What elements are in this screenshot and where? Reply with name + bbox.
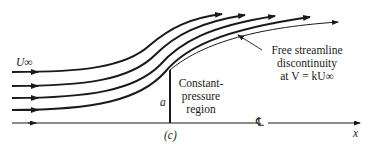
streamline-1 [12, 14, 222, 72]
centerline-symbol: ℄ [256, 116, 264, 129]
free-streamline-label: Free streamline discontinuity at V = kU∞ [257, 44, 357, 83]
constant-pressure-region-label: Constant- pressure region [174, 77, 228, 116]
freestream-velocity-label: U∞ [16, 56, 33, 69]
figure-label: (c) [164, 129, 177, 142]
plate-height-label: a [160, 96, 166, 109]
axis-x-label: x [353, 127, 358, 140]
streamline-2 [12, 15, 245, 86]
